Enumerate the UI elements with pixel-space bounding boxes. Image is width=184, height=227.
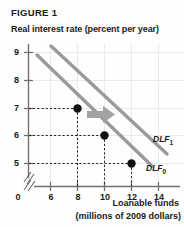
data-point-marker bbox=[73, 104, 81, 112]
curve-dlf0 bbox=[37, 55, 152, 166]
data-point-marker bbox=[100, 131, 108, 139]
x-tick-label: 10 bbox=[97, 192, 113, 202]
curve-label-dlf1-sub: 1 bbox=[170, 139, 174, 146]
x-axis-title-line1: Loanable funds bbox=[112, 198, 179, 208]
y-tick-label: 9 bbox=[5, 47, 19, 57]
guide-lines bbox=[29, 109, 132, 187]
curve-dlf1 bbox=[51, 46, 167, 154]
curve-label-dlf0-sub: 0 bbox=[163, 168, 167, 175]
y-tick-label: 8 bbox=[5, 75, 19, 85]
y-tick-label: 6 bbox=[5, 130, 19, 140]
x-tick-label: 6 bbox=[43, 192, 59, 202]
y-tick-label: 7 bbox=[5, 103, 19, 113]
data-point-marker bbox=[127, 159, 135, 167]
figure-container: FIGURE 1 Real interest rate (percent per… bbox=[0, 0, 184, 227]
y-tick-label: 5 bbox=[5, 158, 19, 168]
origin-label: 0 bbox=[12, 192, 24, 202]
axis-break-mark bbox=[24, 172, 35, 191]
x-tick-label: 8 bbox=[70, 192, 86, 202]
curve-label-dlf1: DLF1 bbox=[153, 134, 173, 146]
x-axis-title-line2: (millions of 2009 dollars) bbox=[75, 211, 181, 221]
curve-label-dlf0: DLF0 bbox=[146, 163, 166, 175]
curve-label-dlf1-text: DLF bbox=[153, 134, 170, 144]
curve-label-dlf0-text: DLF bbox=[146, 163, 163, 173]
